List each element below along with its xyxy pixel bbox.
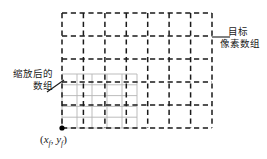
scaled-array-label: 缩放后的 数组 xyxy=(13,68,53,91)
coord-x-sub: f xyxy=(49,139,51,148)
figure-canvas: 目标 像素数组 缩放后的 数组 (xf, yf) xyxy=(0,0,267,159)
target-array-label: 目标 像素数组 xyxy=(228,26,260,49)
origin-coordinate-label: (xf, yf) xyxy=(40,133,67,148)
target-array-label-line2: 像素数组 xyxy=(220,38,260,50)
origin-point-dot xyxy=(59,125,64,130)
scaled-array-label-line2: 数组 xyxy=(13,80,53,92)
scaled-array-label-line1: 缩放后的 xyxy=(13,68,53,80)
coord-y-sub: f xyxy=(61,139,63,148)
target-array-label-line1: 目标 xyxy=(228,26,260,38)
